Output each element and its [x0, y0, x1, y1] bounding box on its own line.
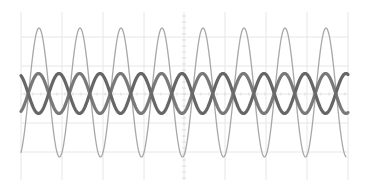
waveform-canvas [0, 0, 365, 188]
oscilloscope-plot [0, 0, 365, 188]
